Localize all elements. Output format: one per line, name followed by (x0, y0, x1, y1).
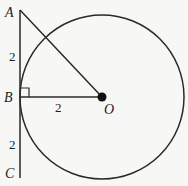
label-b: B (4, 91, 13, 105)
geometry-diagram (0, 0, 188, 186)
right-angle-mark (20, 88, 29, 97)
length-bc: 2 (9, 138, 16, 151)
center-point-o (98, 93, 107, 102)
label-o: O (104, 103, 114, 117)
label-a: A (5, 6, 14, 20)
length-bo: 2 (55, 101, 62, 114)
length-ab: 2 (9, 50, 16, 63)
label-c: C (5, 167, 14, 181)
